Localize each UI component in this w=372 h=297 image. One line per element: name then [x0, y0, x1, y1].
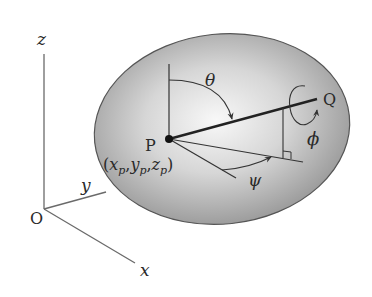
coord-x-subscript: p — [118, 164, 125, 177]
theta-label: θ — [205, 70, 215, 90]
x-axis-label: x — [140, 260, 150, 280]
rigid-body-diagram: z y x O θ ψ ϕ Q P (xp,yp,zp) — [0, 0, 372, 297]
y-axis — [44, 192, 106, 209]
z-axis-label: z — [36, 29, 47, 49]
coord-x: x — [109, 155, 118, 174]
x-axis — [44, 209, 135, 263]
y-axis-label: y — [80, 175, 91, 195]
point-p-dot — [165, 135, 173, 143]
point-p-label: P — [145, 136, 156, 155]
origin-label: O — [30, 209, 43, 228]
point-q-label: Q — [323, 90, 336, 109]
coord-y-subscript: p — [139, 164, 146, 177]
phi-label: ϕ — [307, 128, 319, 149]
psi-label: ψ — [248, 170, 262, 190]
coord-z-subscript: p — [160, 164, 167, 177]
coord-close-paren: ) — [167, 155, 173, 174]
